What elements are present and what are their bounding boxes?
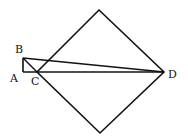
label-a: A [9,72,19,85]
geometry-diagram: B A C D [0,0,188,136]
label-d: D [168,68,177,81]
label-b: B [15,43,23,56]
segment-bc [23,58,37,72]
label-c: C [31,75,39,88]
